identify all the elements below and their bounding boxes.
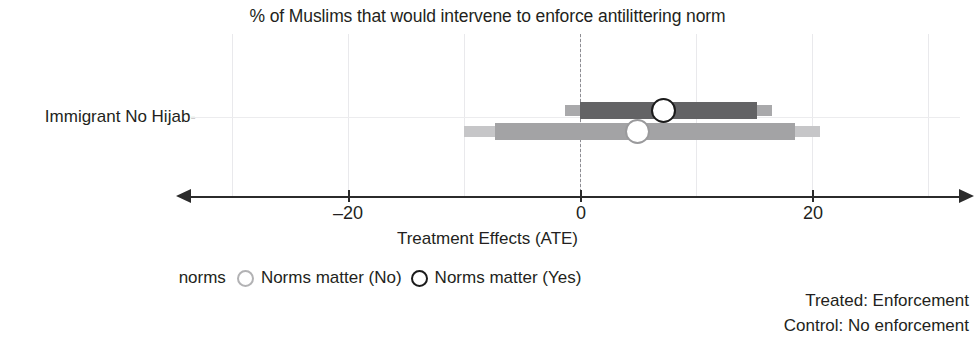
note-treated: Treated: Enforcement <box>784 288 969 313</box>
legend: norms Norms matter (No) Norms matter (Ye… <box>0 268 760 288</box>
point-estimate-yes <box>651 98 676 123</box>
note-control: Control: No enforcement <box>784 313 969 338</box>
gridline-x-30 <box>928 34 929 197</box>
legend-marker-circle-yes-icon <box>411 270 428 287</box>
chart-container: % of Muslims that would intervene to enf… <box>0 0 975 340</box>
y-axis-category-label: Immigrant No Hijab- <box>45 107 196 127</box>
y-axis-category-label-wrap: Immigrant No Hijab- <box>0 107 196 129</box>
legend-title: norms <box>179 268 226 288</box>
x-tick-label-20: 20 <box>803 203 823 224</box>
plot-area <box>190 34 960 197</box>
x-tick-20 <box>812 190 814 202</box>
x-axis-arrow-left-icon <box>176 189 191 203</box>
chart-notes: Treated: Enforcement Control: No enforce… <box>784 288 969 338</box>
x-tick-zero <box>580 190 582 202</box>
gridline-x-minus10 <box>464 34 465 197</box>
x-axis-line <box>190 196 960 198</box>
legend-item-norms-matter-yes[interactable]: Norms matter (Yes) <box>411 268 582 288</box>
legend-item-norms-matter-no[interactable]: Norms matter (No) <box>237 268 402 288</box>
chart-title: % of Muslims that would intervene to enf… <box>0 6 975 27</box>
gridline-y-category <box>190 117 960 118</box>
legend-label-norms-matter-no: Norms matter (No) <box>261 268 402 288</box>
x-tick-minus20 <box>348 190 350 202</box>
x-axis-arrow-right-icon <box>959 189 974 203</box>
gridline-x-20 <box>812 34 813 197</box>
point-estimate-no <box>625 119 650 144</box>
gridline-x-minus20 <box>348 34 349 197</box>
gridline-x-minus30 <box>232 34 233 197</box>
x-tick-label-minus20: –20 <box>333 203 363 224</box>
legend-marker-circle-no-icon <box>237 270 254 287</box>
legend-label-norms-matter-yes: Norms matter (Yes) <box>435 268 582 288</box>
x-tick-label-zero: 0 <box>576 203 586 224</box>
x-axis-title: Treatment Effects (ATE) <box>0 229 975 249</box>
